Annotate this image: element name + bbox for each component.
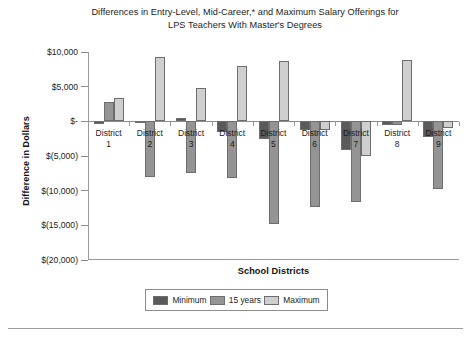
x-axis-category-label: District9 — [418, 128, 459, 150]
category-label-line-1: District — [129, 128, 170, 139]
x-axis-category-label: District1 — [88, 128, 129, 150]
y-axis-tick-mark — [81, 121, 88, 122]
category-label-line-1: District — [294, 128, 335, 139]
y-axis-tick: $10,000 — [0, 46, 88, 58]
chart-figure: Differences in Entry-Level, Mid-Career,*… — [0, 0, 471, 339]
bar-maximum — [114, 98, 124, 122]
category-label-line-1: District — [212, 128, 253, 139]
y-axis-tick-label: $(10,000) — [41, 185, 78, 197]
y-axis-tick-label: $(20,000) — [41, 254, 78, 266]
x-axis-category-label: District6 — [294, 128, 335, 150]
category-label-line-1: District — [377, 128, 418, 139]
legend-item: 15 years — [210, 295, 261, 305]
category-label-line-1: District — [418, 128, 459, 139]
bar-minimum — [135, 121, 145, 123]
y-axis-tick: $(5,000) — [0, 150, 88, 162]
y-axis-tick: $(10,000) — [0, 185, 88, 197]
legend-label: Maximum — [283, 295, 319, 305]
y-axis-tick-label: $10,000 — [47, 46, 78, 58]
legend-swatch-maximum — [264, 296, 279, 305]
category-label-line-1: District — [170, 128, 211, 139]
y-axis-tick: $(15,000) — [0, 219, 88, 231]
y-axis-tick-mark — [81, 225, 88, 226]
category-label-line-2: 1 — [88, 139, 129, 150]
y-axis-tick: $- — [0, 115, 88, 127]
bar-15-years — [392, 121, 402, 125]
x-axis-title: School Districts — [88, 266, 459, 276]
chart-title: Differences in Entry-Level, Mid-Career,*… — [55, 6, 435, 32]
x-axis-category-label: District4 — [212, 128, 253, 150]
x-axis-category-label: District5 — [253, 128, 294, 150]
y-axis-tick-label: $- — [70, 115, 78, 127]
x-axis-tick-mark — [459, 122, 460, 126]
legend-label: Minimum — [172, 295, 206, 305]
category-label-line-1: District — [253, 128, 294, 139]
legend-swatch-years15 — [210, 296, 225, 305]
bottom-divider — [8, 328, 463, 329]
bars-layer — [88, 52, 459, 260]
x-axis-category-label: District3 — [170, 128, 211, 150]
legend-label: 15 years — [229, 295, 261, 305]
category-label-line-1: District — [88, 128, 129, 139]
y-axis-tick: $5,000 — [0, 81, 88, 93]
bar-minimum — [94, 121, 104, 124]
y-axis-tick-mark — [81, 260, 88, 261]
category-label-line-2: 3 — [170, 139, 211, 150]
category-label-line-1: District — [335, 128, 376, 139]
category-label-line-2: 4 — [212, 139, 253, 150]
legend-swatch-minimum — [153, 296, 168, 305]
category-label-line-2: 8 — [377, 139, 418, 150]
y-axis-tick-label: $(15,000) — [41, 219, 78, 231]
y-axis-tick-mark — [81, 52, 88, 53]
bar-maximum — [155, 57, 165, 121]
bar-minimum — [176, 118, 186, 121]
legend-item: Maximum — [264, 295, 319, 305]
chart-title-line-2: LPS Teachers With Master's Degrees — [55, 19, 435, 32]
chart-title-line-1: Differences in Entry-Level, Mid-Career,*… — [55, 6, 435, 19]
y-axis-tick-mark — [81, 190, 88, 191]
y-axis-tick-mark — [81, 86, 88, 87]
category-label-line-2: 9 — [418, 139, 459, 150]
bar-minimum — [382, 121, 392, 124]
category-label-line-2: 2 — [129, 139, 170, 150]
category-label-line-2: 6 — [294, 139, 335, 150]
bar-maximum — [402, 60, 412, 122]
y-axis-tick: $(20,000) — [0, 254, 88, 266]
category-label-line-2: 7 — [335, 139, 376, 150]
legend-item: Minimum — [153, 295, 206, 305]
y-axis-tick-label: $5,000 — [52, 81, 78, 93]
x-axis-category-label: District8 — [377, 128, 418, 150]
bar-maximum — [237, 66, 247, 121]
y-axis-tick-label: $(5,000) — [46, 150, 78, 162]
y-axis-tick-mark — [81, 156, 88, 157]
category-label-line-2: 5 — [253, 139, 294, 150]
x-axis-category-label: District7 — [335, 128, 376, 150]
bar-15-years — [104, 102, 114, 121]
bar-maximum — [196, 88, 206, 121]
bar-maximum — [279, 61, 289, 121]
x-axis-category-label: District2 — [129, 128, 170, 150]
chart-legend: Minimum15 yearsMaximum — [145, 289, 328, 311]
